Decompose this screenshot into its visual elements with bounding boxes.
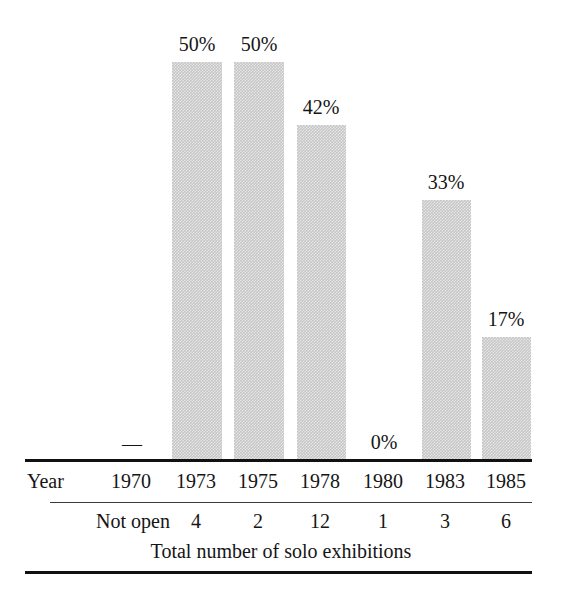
table-row-counts: Not open 4 2 12 1 3 6	[0, 506, 562, 536]
bar-label-1978: 42%	[286, 97, 356, 117]
year-cell-1970: 1970	[99, 466, 163, 496]
count-cell-1983: 3	[413, 506, 477, 536]
row-header-year: Year	[27, 466, 64, 496]
bar-chart-figure: — 50% 50% 42% 0% 33% 17% Year 1970 1973 …	[0, 0, 562, 589]
chart-caption: Total number of solo exhibitions	[0, 536, 562, 566]
bottom-rule	[25, 571, 532, 574]
bar-1975	[234, 62, 284, 460]
count-cell-1980: 1	[351, 506, 415, 536]
bar-label-1980: 0%	[349, 432, 419, 452]
bar-1978	[297, 125, 346, 460]
count-cell-1985: 6	[474, 506, 538, 536]
year-cell-1985: 1985	[474, 466, 538, 496]
table-row-caption: Total number of solo exhibitions	[0, 536, 562, 566]
axis-rule	[25, 459, 532, 462]
year-cell-1978: 1978	[288, 466, 352, 496]
table-divider-rule	[50, 502, 532, 503]
year-cell-1983: 1983	[413, 466, 477, 496]
year-cell-1980: 1980	[351, 466, 415, 496]
count-cell-1973: 4	[164, 506, 228, 536]
bar-label-1975: 50%	[224, 34, 294, 54]
bar-label-1973: 50%	[162, 34, 232, 54]
count-cell-1978: 12	[288, 506, 352, 536]
count-cell-1975: 2	[226, 506, 290, 536]
bar-1983	[422, 200, 471, 460]
bar-1973	[172, 62, 222, 460]
plot-area: — 50% 50% 42% 0% 33% 17%	[0, 0, 562, 461]
bar-1985	[482, 337, 531, 460]
table-row-year: Year 1970 1973 1975 1978 1980 1983 1985	[0, 466, 562, 496]
bar-label-1985: 17%	[471, 309, 541, 329]
year-cell-1973: 1973	[164, 466, 228, 496]
year-cell-1975: 1975	[226, 466, 290, 496]
bar-label-1970: —	[108, 434, 156, 454]
bar-label-1983: 33%	[411, 172, 481, 192]
